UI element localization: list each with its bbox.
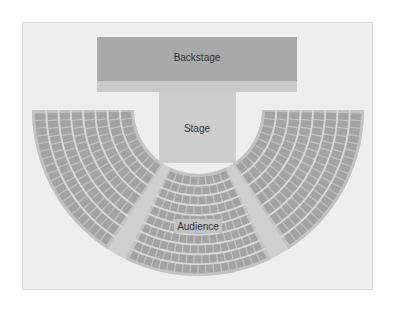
seat[interactable] [202,235,209,243]
seat[interactable] [195,255,202,263]
seat[interactable] [35,121,46,128]
seat[interactable] [191,177,198,185]
seat[interactable] [199,177,206,185]
backstage-strip [97,80,297,92]
seat[interactable] [186,206,193,214]
seat[interactable] [314,113,325,120]
seat[interactable] [191,265,198,273]
seat[interactable] [202,255,209,263]
seat[interactable] [195,206,202,214]
seat[interactable] [72,113,83,120]
seat[interactable] [195,236,202,244]
seat[interactable] [289,112,300,119]
seat[interactable] [60,113,71,120]
seat[interactable] [202,206,209,214]
seating-map: Backstage Stage Audience [0,0,396,310]
seat[interactable] [210,235,217,243]
seat[interactable] [175,264,182,273]
seat[interactable] [190,196,197,204]
seat[interactable] [187,235,194,243]
seat[interactable] [183,245,190,253]
seat[interactable] [337,121,348,128]
seat[interactable] [48,121,59,128]
seat[interactable] [60,120,71,127]
seat[interactable] [175,244,182,253]
seat[interactable] [277,112,288,119]
seat[interactable] [187,255,194,263]
seat[interactable] [96,112,107,119]
seat[interactable] [199,196,206,204]
seat[interactable] [206,265,213,273]
seat[interactable] [121,112,132,119]
seat[interactable] [202,186,209,194]
seat[interactable] [179,254,186,262]
stage-label: Stage [184,123,211,134]
seat[interactable] [206,245,213,253]
seat[interactable] [199,245,206,253]
seat[interactable] [171,253,179,262]
seat[interactable] [195,187,202,195]
seat[interactable] [217,253,225,262]
seat[interactable] [214,264,221,273]
seat[interactable] [325,120,336,127]
seat[interactable] [265,112,276,119]
seat[interactable] [213,244,220,253]
backstage-label: Backstage [174,52,221,63]
seat[interactable] [84,112,95,119]
seat[interactable] [47,113,58,120]
seat[interactable] [210,254,217,262]
seat[interactable] [338,113,349,120]
seat[interactable] [350,121,361,128]
audience-label: Audience [177,221,219,232]
seat[interactable] [199,265,206,273]
seat[interactable] [183,265,190,273]
seat[interactable] [182,195,190,204]
seat[interactable] [179,235,186,243]
seat[interactable] [206,195,214,204]
seat[interactable] [350,113,361,120]
seat[interactable] [35,113,46,120]
seat[interactable] [186,186,193,194]
seat[interactable] [301,112,312,119]
seat[interactable] [109,112,120,119]
seat[interactable] [191,245,198,253]
seat[interactable] [326,113,337,120]
